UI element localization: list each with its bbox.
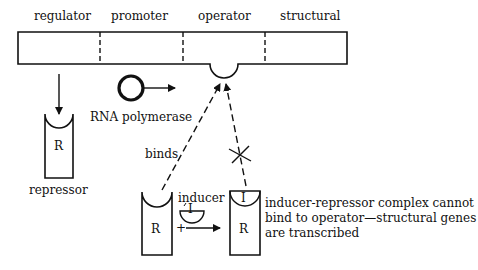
dna-strand — [18, 32, 347, 78]
note-line-3: are transcribed — [265, 226, 476, 241]
lac-operon-diagram: regulator promoter operator structural R… — [0, 0, 478, 270]
note-line-2: bind to operator—structural genes — [265, 211, 476, 226]
repressor-symbol: R — [54, 140, 63, 152]
segment-label-operator: operator — [198, 10, 251, 22]
binds-arrow — [162, 84, 220, 190]
complex-note: inducer-repressor complex cannot bind to… — [265, 196, 476, 241]
bound-inducer-symbol: I — [241, 192, 246, 204]
repressor-symbol-2: R — [151, 223, 160, 235]
segment-label-promoter: promoter — [111, 10, 168, 22]
rna-polymerase-label: RNA polymerase — [90, 111, 192, 123]
segment-label-structural: structural — [280, 10, 340, 22]
inducer-symbol: I — [188, 203, 193, 215]
inducer-label: inducer — [178, 192, 225, 204]
blocked-binding-arrow — [226, 84, 246, 186]
rna-polymerase-icon — [119, 76, 143, 100]
repressor-symbol-3: R — [239, 223, 248, 235]
binds-label: binds — [145, 148, 178, 160]
plus-sign: + — [176, 222, 186, 234]
segment-label-regulator: regulator — [34, 10, 91, 22]
repressor-label: repressor — [29, 184, 88, 196]
note-line-1: inducer-repressor complex cannot — [265, 196, 476, 211]
